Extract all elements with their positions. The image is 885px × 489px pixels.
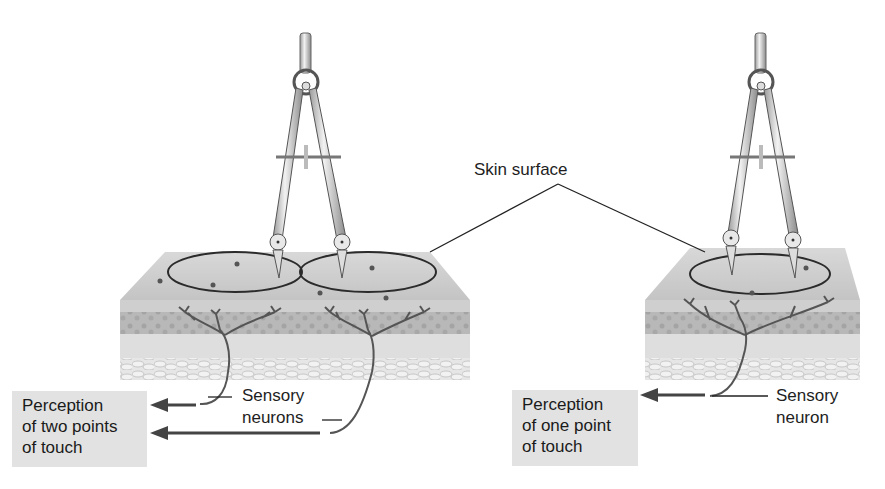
right-skin-block (645, 248, 860, 396)
sensory-neurons-label-line2: neurons (242, 408, 303, 428)
box-line: of touch (22, 437, 139, 458)
box-line: of touch (522, 436, 630, 457)
arrow-head-icon (640, 388, 658, 402)
caliper-right (723, 33, 801, 278)
box-line: of one point (522, 415, 630, 436)
arrow-head-icon (150, 398, 168, 412)
arrow-head-icon (150, 426, 168, 440)
box-line: of two points (22, 416, 139, 437)
sensory-neurons-label-line1: Sensory (242, 386, 304, 406)
sensory-neuron-label-line1: Sensory (776, 386, 838, 406)
perception-two-points-box: Perception of two points of touch (12, 391, 147, 467)
skin-surface-label: Skin surface (474, 160, 568, 180)
skin-surface-leaders (430, 184, 705, 252)
sensory-neuron-label-line2: neuron (776, 408, 829, 428)
box-line: Perception (22, 395, 139, 416)
box-line: Perception (522, 394, 630, 415)
perception-one-point-box: Perception of one point of touch (512, 390, 638, 466)
caliper-left (270, 33, 350, 278)
